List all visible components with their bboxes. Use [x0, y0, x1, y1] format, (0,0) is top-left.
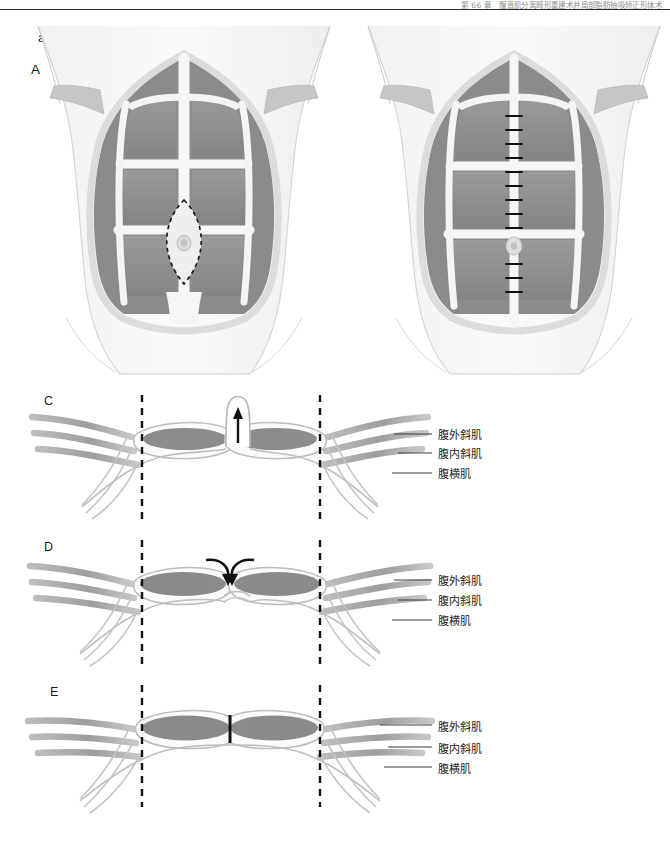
panel-A-illustration [20, 18, 340, 378]
label-transversus-abdominis-E: 腹横肌 [438, 760, 471, 776]
label-internal-oblique-C: 腹内斜肌 [438, 445, 482, 461]
right-rectus-belly [230, 716, 318, 741]
left-oblique-layers [30, 566, 138, 612]
figure-page: 第 66 章 腹直肌分离畸形重建术并局部脂肪抽吸矫正形体术 a A [0, 0, 670, 845]
panel-E-illustration [20, 675, 440, 815]
header-rule [0, 9, 670, 10]
right-rectus-belly [234, 572, 320, 596]
right-oblique-layers [322, 566, 430, 612]
panel-B-illustration [350, 18, 670, 378]
label-external-oblique-C: 腹外斜肌 [438, 426, 482, 442]
left-rectus-belly [142, 716, 230, 741]
right-oblique-layers [322, 417, 428, 465]
left-rectus-belly [140, 572, 226, 596]
label-external-oblique-D: 腹外斜肌 [438, 572, 482, 588]
label-transversus-abdominis-C: 腹横肌 [438, 465, 471, 481]
label-internal-oblique-D: 腹内斜肌 [438, 592, 482, 608]
label-external-oblique-E: 腹外斜肌 [438, 718, 482, 734]
left-rectus-belly [143, 428, 227, 450]
right-rectus-abdominis [192, 98, 248, 296]
panel-D-illustration [20, 530, 440, 670]
panel-E-leader-lines [380, 725, 432, 767]
label-internal-oblique-E: 腹内斜肌 [438, 740, 482, 756]
left-rectus-abdominis [120, 98, 176, 296]
right-rectus-abdominis [520, 98, 578, 300]
left-rectus-abdominis [450, 98, 508, 300]
running-head: 第 66 章 腹直肌分离畸形重建术并局部脂肪抽吸矫正形体术 [0, 0, 670, 11]
label-transversus-abdominis-D: 腹横肌 [438, 612, 471, 628]
left-oblique-layers [32, 417, 138, 465]
panel-C-illustration [20, 385, 440, 525]
panel-C-leader-lines [392, 434, 432, 473]
